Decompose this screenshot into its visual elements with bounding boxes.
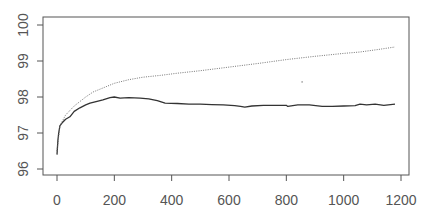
y-tick-label: 100 [15,13,31,37]
x-tick-label: 600 [217,192,241,208]
y-axis: 96979899100 [15,13,43,177]
series-solid-line [57,97,395,155]
y-tick-label: 97 [15,125,31,141]
x-tick-label: 200 [103,192,127,208]
annotation-layer [301,81,302,82]
x-tick-label: 1000 [328,192,359,208]
y-tick-label: 98 [15,89,31,105]
x-tick-label: 1200 [385,192,416,208]
x-tick-label: 0 [53,192,61,208]
stray-point [301,81,302,82]
y-tick-label: 99 [15,53,31,69]
x-tick-label: 800 [275,192,299,208]
series-layer [57,47,395,155]
plot-frame [43,17,409,175]
x-tick-label: 400 [160,192,184,208]
x-axis: 020040060080010001200 [53,175,417,208]
y-tick-label: 96 [15,161,31,177]
line-chart: 96979899100 020040060080010001200 [0,0,425,218]
